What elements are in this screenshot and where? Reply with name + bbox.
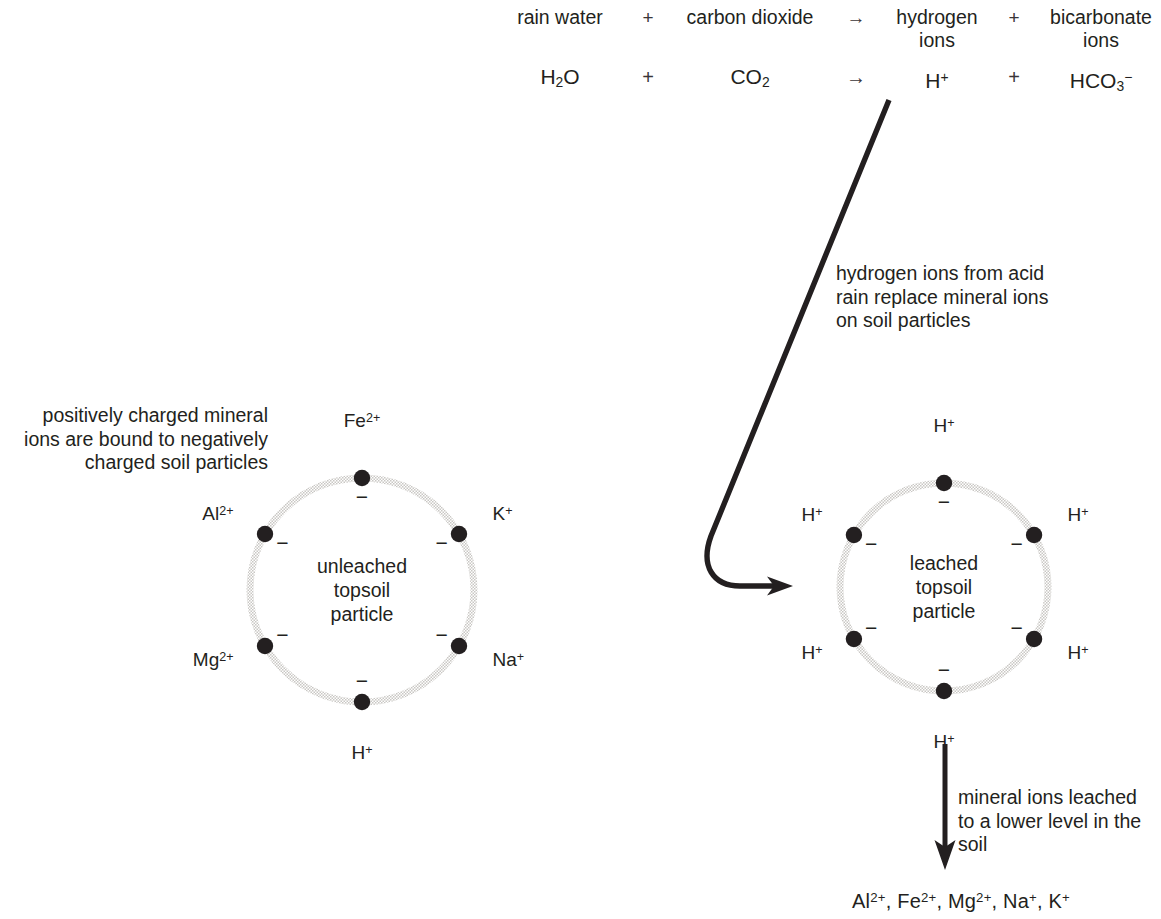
formula-h: H bbox=[925, 69, 940, 92]
ion-symbol: Mg bbox=[193, 649, 219, 670]
ion-charge: + bbox=[505, 504, 512, 518]
negative-charge-site-top: − bbox=[924, 490, 964, 514]
formula-bicarbonate: HCO3− bbox=[1070, 65, 1132, 98]
leached-ion-k: K+ bbox=[1048, 890, 1069, 912]
negative-charge-site-lower-right: − bbox=[422, 623, 462, 647]
formula-co: CO bbox=[730, 65, 762, 88]
equation-product-bicarbonate-ions: bicarbonate ions bbox=[1036, 6, 1161, 52]
particle-center-line-2: particle bbox=[272, 602, 452, 626]
equation-reactant-carbon-dioxide: carbon dioxide bbox=[687, 6, 814, 29]
acid-rain-equation: rain water + carbon dioxide → hydrogen i… bbox=[494, 6, 1114, 98]
leached-ion-mg: Mg2+ bbox=[948, 890, 992, 912]
leached-ion-separator: , bbox=[992, 890, 1004, 912]
formula-plus-1: + bbox=[642, 65, 654, 89]
formula-water: H2O bbox=[540, 65, 579, 94]
ion-label-site-lower-right: H+ bbox=[1068, 642, 1140, 664]
particle-center-line-2: particle bbox=[854, 599, 1034, 623]
ion-label-site-upper-right: H+ bbox=[1068, 504, 1140, 526]
particle-leached: −−−−−−H+H+H+H+H+H+leachedtopsoilparticle bbox=[770, 413, 1118, 761]
ion-symbol: H bbox=[1068, 642, 1082, 663]
negative-charge-site-bottom: − bbox=[342, 669, 382, 693]
binding-site-bottom bbox=[936, 683, 952, 699]
ion-symbol: H bbox=[351, 742, 365, 763]
leached-ion-separator: , bbox=[886, 890, 898, 912]
formula-hydrogen-ion: H+ bbox=[925, 65, 948, 93]
leached-ion-na: Na+ bbox=[1003, 890, 1037, 912]
equation-product-hydrogen-ions: hydrogen ions bbox=[882, 6, 992, 52]
formula-co2-sub: 2 bbox=[762, 74, 770, 90]
equation-word-row: rain water + carbon dioxide → hydrogen i… bbox=[494, 6, 1114, 52]
particle-center-line-0: leached bbox=[854, 551, 1034, 575]
ion-label-site-upper-left: H+ bbox=[751, 504, 823, 526]
ion-label-site-lower-left: Mg2+ bbox=[162, 649, 234, 671]
ion-label-site-upper-right: K+ bbox=[492, 503, 564, 525]
particle-center-label-unleached: unleachedtopsoilparticle bbox=[272, 554, 452, 626]
diagram-canvas: rain water + carbon dioxide → hydrogen i… bbox=[0, 0, 1161, 919]
ion-symbol: H bbox=[933, 415, 947, 436]
leaching-arrow bbox=[935, 744, 956, 870]
ion-charge: + bbox=[815, 505, 822, 519]
equation-plus-2: + bbox=[1008, 6, 1019, 29]
ion-symbol: H bbox=[933, 731, 947, 752]
negative-charge-site-top: − bbox=[342, 485, 382, 509]
ion-charge: 2+ bbox=[219, 504, 233, 518]
particle-center-label-leached: leachedtopsoilparticle bbox=[854, 551, 1034, 623]
binding-site-top bbox=[936, 475, 952, 491]
ion-charge: + bbox=[947, 416, 954, 430]
leached-mineral-ions-list: Al2+, Fe2+, Mg2+, Na+, K+ bbox=[771, 886, 1151, 913]
negative-charge-site-upper-left: − bbox=[262, 531, 302, 555]
equation-yields-arrow-words: → bbox=[847, 6, 866, 29]
ion-charge: + bbox=[1081, 643, 1088, 657]
ion-label-site-bottom: H+ bbox=[904, 731, 984, 753]
formula-hco: HCO bbox=[1070, 69, 1117, 92]
equation-yields-arrow-symbols: → bbox=[846, 65, 866, 89]
ion-charge: 2+ bbox=[366, 411, 380, 425]
ion-charge: + bbox=[815, 643, 822, 657]
particle-unleached: −−−−−−Fe2+Al2+K+Mg2+Na+H+unleachedtopsoi… bbox=[180, 408, 544, 772]
caption-hydrogen-replacement: hydrogen ions from acid rain replace min… bbox=[836, 262, 1051, 333]
formula-hco3-charge: − bbox=[1124, 69, 1132, 85]
formula-h-charge: + bbox=[941, 69, 949, 85]
caption-leaching: mineral ions leached to a lower level in… bbox=[958, 786, 1158, 857]
ion-label-site-lower-right: Na+ bbox=[492, 649, 564, 671]
binding-site-top bbox=[354, 470, 370, 486]
ion-charge: 2+ bbox=[219, 650, 233, 664]
negative-charge-site-bottom: − bbox=[924, 658, 964, 682]
negative-charge-site-upper-right: − bbox=[422, 531, 462, 555]
leached-ion-separator: , bbox=[1037, 890, 1049, 912]
ion-charge: + bbox=[365, 743, 372, 757]
equation-plus-1: + bbox=[642, 6, 653, 29]
ion-symbol: Al bbox=[202, 503, 219, 524]
ion-symbol: K bbox=[492, 503, 505, 524]
formula-hco3-sub: 3 bbox=[1116, 78, 1124, 94]
ion-charge: + bbox=[1081, 505, 1088, 519]
particle-center-line-1: topsoil bbox=[272, 578, 452, 602]
ion-charge: + bbox=[947, 732, 954, 746]
particle-center-line-1: topsoil bbox=[854, 575, 1034, 599]
equation-symbol-row: H2O + CO2 → H+ + HCO3− bbox=[494, 65, 1114, 98]
ion-symbol: H bbox=[1068, 504, 1082, 525]
ion-symbol: Fe bbox=[344, 410, 366, 431]
equation-reactant-rain-water: rain water bbox=[517, 6, 603, 29]
leached-ion-fe: Fe2+ bbox=[897, 890, 936, 912]
ion-label-site-upper-left: Al2+ bbox=[162, 503, 234, 525]
formula-water-o: O bbox=[563, 65, 579, 88]
ion-symbol: H bbox=[801, 504, 815, 525]
ion-symbol: Na bbox=[492, 649, 516, 670]
ion-label-site-top: H+ bbox=[904, 415, 984, 437]
ion-charge: + bbox=[517, 650, 524, 664]
negative-charge-site-lower-left: − bbox=[262, 623, 302, 647]
ion-label-site-top: Fe2+ bbox=[322, 410, 402, 432]
formula-water-h: H bbox=[540, 65, 555, 88]
binding-site-bottom bbox=[354, 694, 370, 710]
leached-ion-separator: , bbox=[936, 890, 948, 912]
formula-plus-2: + bbox=[1008, 65, 1020, 89]
ion-label-site-lower-left: H+ bbox=[751, 642, 823, 664]
formula-carbon-dioxide: CO2 bbox=[730, 65, 769, 94]
ion-label-site-bottom: H+ bbox=[322, 742, 402, 764]
leached-ion-al: Al2+ bbox=[852, 890, 886, 912]
ion-symbol: H bbox=[801, 642, 815, 663]
particle-center-line-0: unleached bbox=[272, 554, 452, 578]
